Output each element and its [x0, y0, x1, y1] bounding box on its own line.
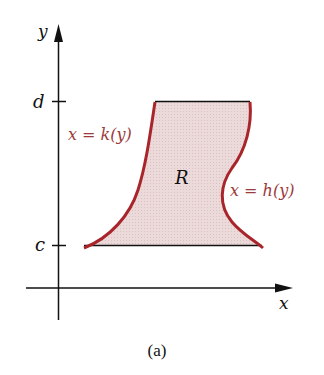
y-axis-label: y	[37, 21, 48, 41]
tick-label-c: c	[35, 234, 45, 255]
x-axis-arrow-icon	[275, 284, 293, 293]
right-curve-label: x = h(y)	[230, 181, 294, 200]
figure-caption: (a)	[148, 341, 167, 360]
x-axis-label: x	[279, 293, 289, 313]
region-diagram: y x d c R x = k(y) x = h(y) (a)	[0, 0, 324, 375]
tick-label-d: d	[33, 91, 45, 112]
y-axis-arrow-icon	[54, 24, 63, 42]
region-label: R	[174, 167, 189, 188]
left-curve-label: x = k(y)	[68, 125, 132, 144]
